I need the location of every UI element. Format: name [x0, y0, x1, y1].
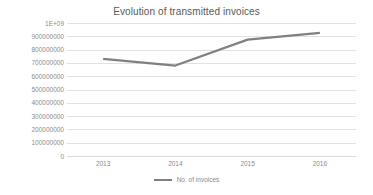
- x-axis-tick-label: 2014: [168, 160, 182, 167]
- y-axis-tick-labels: 1E+0990000000080000000070000000060000000…: [0, 0, 64, 195]
- y-axis-tick-label: 300000000: [2, 113, 64, 120]
- y-axis-tick-label: 800000000: [2, 46, 64, 53]
- legend-line-swatch: [154, 179, 172, 181]
- y-axis-tick-label: 500000000: [2, 86, 64, 93]
- y-axis-tick-label: 600000000: [2, 73, 64, 80]
- y-axis-tick-label: 200000000: [2, 126, 64, 133]
- x-axis-tick-label: 2015: [240, 160, 254, 167]
- series-line-no-of-invoices: [67, 23, 356, 156]
- y-axis-tick-label: 900000000: [2, 33, 64, 40]
- plot-area: [67, 23, 356, 156]
- y-axis-tick-label: 1E+09: [2, 20, 64, 27]
- y-axis-tick-label: 700000000: [2, 59, 64, 66]
- x-axis-line: [67, 156, 356, 157]
- chart-container: Evolution of transmitted invoices 1E+099…: [0, 0, 373, 195]
- y-axis-tick-label: 100000000: [2, 139, 64, 146]
- legend-label-no-of-invoices: No. of invoices: [177, 176, 220, 183]
- y-axis-tick-label: 0: [2, 153, 64, 160]
- x-axis-tick-label: 2016: [313, 160, 327, 167]
- y-axis-tick-label: 400000000: [2, 99, 64, 106]
- chart-legend: No. of invoices: [0, 176, 373, 183]
- x-axis-tick-label: 2013: [96, 160, 110, 167]
- x-axis-tick-labels: 2013201420152016: [67, 160, 356, 172]
